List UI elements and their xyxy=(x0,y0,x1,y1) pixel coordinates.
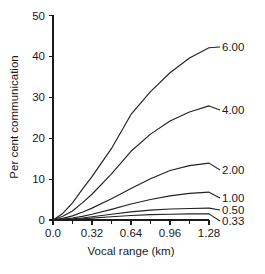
y-tick-label-20: 20 xyxy=(32,132,45,144)
x-tick-label-0.32: 0.32 xyxy=(81,227,103,239)
chart-figure: 01020304050 0.00.320.640.961.28 6.004.00… xyxy=(0,0,265,274)
plot-axes xyxy=(53,15,209,220)
y-tick-label-0: 0 xyxy=(39,214,45,226)
data-curves xyxy=(53,48,209,220)
line-chart-svg: 01020304050 0.00.320.640.961.28 6.004.00… xyxy=(0,0,265,274)
series-label-6.00: 6.00 xyxy=(222,41,244,53)
leader-1.00 xyxy=(209,192,220,198)
x-axis-ticks xyxy=(53,220,209,225)
series-label-leaders xyxy=(209,47,220,221)
series-label-1.00: 1.00 xyxy=(222,192,244,204)
x-axis-tick-labels: 0.00.320.640.961.28 xyxy=(45,227,220,239)
y-tick-label-40: 40 xyxy=(32,50,45,62)
x-tick-label-0.0: 0.0 xyxy=(45,227,61,239)
y-axis-title: Per cent communication xyxy=(8,55,20,178)
leader-4.00 xyxy=(209,106,220,110)
y-axis-tick-labels: 01020304050 xyxy=(32,10,45,227)
series-label-2.00: 2.00 xyxy=(222,164,244,176)
curve-4.00 xyxy=(53,106,209,220)
x-tick-label-0.64: 0.64 xyxy=(120,227,143,239)
series-label-4.00: 4.00 xyxy=(222,104,244,116)
leader-0.50 xyxy=(209,208,220,210)
x-tick-label-1.28: 1.28 xyxy=(198,227,220,239)
y-axis-ticks xyxy=(49,16,54,221)
y-tick-label-10: 10 xyxy=(32,173,45,185)
series-label-0.33: 0.33 xyxy=(222,215,244,227)
y-tick-label-50: 50 xyxy=(32,10,45,22)
series-labels: 6.004.002.001.000.500.33 xyxy=(222,41,244,227)
leader-2.00 xyxy=(209,163,220,170)
x-tick-label-0.96: 0.96 xyxy=(159,227,181,239)
x-axis-title: Vocal range (km) xyxy=(88,245,175,257)
y-tick-label-30: 30 xyxy=(32,91,45,103)
leader-6.00 xyxy=(209,47,220,48)
leader-0.33 xyxy=(209,214,220,221)
